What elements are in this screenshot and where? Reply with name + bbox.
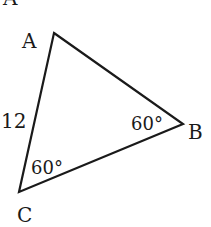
angle-label-b: 60° <box>131 113 163 134</box>
problem-label: A <box>2 0 18 10</box>
side-label-ac: 12 <box>1 109 26 133</box>
vertex-label-c: C <box>17 203 32 227</box>
vertex-label-b: B <box>188 120 203 144</box>
vertex-label-a: A <box>21 29 37 53</box>
angle-label-c: 60° <box>31 157 63 178</box>
triangle-diagram: A A B C 12 60° 60° <box>0 0 211 227</box>
